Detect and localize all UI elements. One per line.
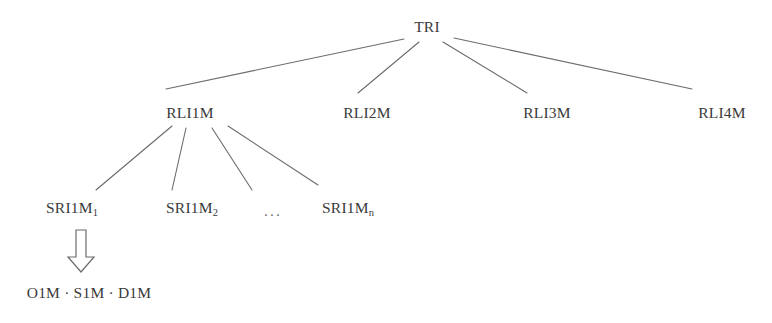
edge-rli1m-to-sri1m1	[96, 126, 172, 190]
node-sri1m-n[interactable]: SRI1Mn	[322, 200, 374, 218]
edge-rli1m-to-sri1mn	[228, 126, 318, 185]
node-rli3m-label: RLI3M	[523, 104, 571, 121]
node-rli1m-label: RLI1M	[166, 104, 214, 121]
node-rli1m[interactable]: RLI1M	[166, 105, 214, 121]
node-sri1m-1-base: SRI1M	[46, 199, 93, 216]
node-rli2m[interactable]: RLI2M	[343, 105, 391, 121]
edge-root-to-rli4m	[454, 38, 692, 89]
node-sri1m-2-subscript: 2	[213, 207, 218, 218]
edge-rli1m-to-sri1mn	[212, 128, 252, 190]
node-sri1m-1-subscript: 1	[93, 207, 98, 218]
edge-root-to-rli3m	[443, 42, 527, 93]
edge-root-to-rli2m	[358, 42, 419, 93]
leaf-node-o1m-s1m-d1m[interactable]: O1M · S1M · D1M	[27, 285, 151, 301]
node-rli3m[interactable]: RLI3M	[523, 105, 571, 121]
node-sri1m-n-subscript: n	[369, 207, 374, 218]
node-sri1m-2[interactable]: SRI1M2	[166, 200, 218, 218]
ellipsis-label: ...	[264, 203, 282, 219]
edge-rli1m-to-sri1m2	[172, 128, 186, 190]
edge-root-to-rli1m	[166, 39, 404, 89]
edge-layer	[0, 0, 772, 323]
diagram-canvas: TRI RLI1M RLI2M RLI3M RLI4M SRI1M1 SRI1M…	[0, 0, 772, 323]
node-rli4m[interactable]: RLI4M	[698, 105, 746, 121]
node-sri1m-1[interactable]: SRI1M1	[46, 200, 98, 218]
block-arrow-down-icon	[66, 229, 96, 274]
node-sri1m-n-base: SRI1M	[322, 199, 369, 216]
node-rli4m-label: RLI4M	[698, 104, 746, 121]
node-root-label: TRI	[414, 18, 440, 35]
node-sri1m-2-base: SRI1M	[166, 199, 213, 216]
node-rli2m-label: RLI2M	[343, 104, 391, 121]
node-root[interactable]: TRI	[414, 19, 440, 35]
